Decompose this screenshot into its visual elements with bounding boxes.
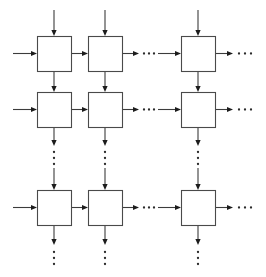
processing-cell-r2c2 <box>89 93 123 128</box>
arrowhead-h-r1-c3-in <box>175 51 181 56</box>
arrowhead-left-in-r3 <box>31 205 37 210</box>
ellipsis-dot <box>53 163 55 165</box>
ellipsis-horizontal-continuation-row-2-right <box>238 108 252 110</box>
ellipsis-dots-layer <box>53 52 252 265</box>
arrowhead-top-in-c3 <box>195 30 200 36</box>
ellipsis-dot <box>148 206 150 208</box>
processing-cell-r2c3 <box>182 93 216 128</box>
ellipsis-dot <box>148 52 150 54</box>
processing-cell-r3c2 <box>89 191 123 226</box>
diagram-canvas <box>0 0 266 277</box>
ellipsis-vertical-continuation-col-1 <box>53 151 55 165</box>
processing-cell-r3c3 <box>182 191 216 226</box>
arrowhead-top-in-c1 <box>51 30 56 36</box>
ellipsis-vertical-continuation-col-3-bottom <box>197 251 199 265</box>
ellipsis-dot <box>153 52 155 54</box>
ellipsis-vertical-continuation-col-1-bottom <box>53 251 55 265</box>
arrowhead-h-r2-c2-out <box>133 107 139 112</box>
arrowhead-h-r3-c3-out <box>227 205 233 210</box>
arrowhead-v-c1-r2-out <box>51 140 56 146</box>
arrowhead-left-in-r1 <box>31 51 37 56</box>
ellipsis-dot <box>197 263 199 265</box>
arrowhead-v-c1-r3-out <box>51 239 56 245</box>
arrowhead-h-r2-c3-in <box>175 107 181 112</box>
arrowhead-top-in-c2 <box>102 30 107 36</box>
ellipsis-horizontal-continuation-row-2 <box>143 108 155 110</box>
ellipsis-dot <box>197 163 199 165</box>
processing-cells-layer <box>38 37 216 226</box>
ellipsis-dot <box>143 52 145 54</box>
ellipsis-dot <box>104 157 106 159</box>
arrowhead-h-r1-c1c2 <box>82 51 88 56</box>
ellipsis-horizontal-continuation-row-3 <box>143 206 155 208</box>
arrowhead-h-r3-c1c2 <box>82 205 88 210</box>
ellipsis-dot <box>153 108 155 110</box>
ellipsis-horizontal-continuation-row-1-right <box>238 52 252 54</box>
processing-cell-r3c1 <box>38 191 72 226</box>
ellipsis-dot <box>238 108 240 110</box>
ellipsis-vertical-continuation-col-3 <box>197 151 199 165</box>
arrowhead-h-r2-c1c2 <box>82 107 88 112</box>
ellipsis-dot <box>53 263 55 265</box>
ellipsis-vertical-continuation-col-2 <box>104 151 106 165</box>
arrowhead-h-r3-c2-out <box>133 205 139 210</box>
ellipsis-dot <box>250 52 252 54</box>
ellipsis-dot <box>244 52 246 54</box>
processing-cell-r2c1 <box>38 93 72 128</box>
array-grid-diagram <box>0 0 266 277</box>
ellipsis-dot <box>238 52 240 54</box>
ellipsis-dot <box>143 206 145 208</box>
ellipsis-dot <box>250 108 252 110</box>
ellipsis-dot <box>104 151 106 153</box>
arrowhead-h-r1-c3-out <box>227 51 233 56</box>
ellipsis-dot <box>197 157 199 159</box>
arrowhead-h-r2-c3-out <box>227 107 233 112</box>
ellipsis-dot <box>104 257 106 259</box>
arrowhead-v-c2-r3-out <box>102 239 107 245</box>
ellipsis-dot <box>244 108 246 110</box>
arrowhead-v-c3-r3-in <box>195 184 200 190</box>
ellipsis-dot <box>53 157 55 159</box>
arrowhead-v-c3-r3-out <box>195 239 200 245</box>
ellipsis-dot <box>53 251 55 253</box>
ellipsis-dot <box>148 108 150 110</box>
ellipsis-horizontal-continuation-row-3-right <box>238 206 252 208</box>
ellipsis-dot <box>104 263 106 265</box>
ellipsis-dot <box>197 257 199 259</box>
ellipsis-dot <box>250 206 252 208</box>
processing-cell-r1c1 <box>38 37 72 72</box>
ellipsis-horizontal-continuation-row-1 <box>143 52 155 54</box>
ellipsis-dot <box>197 251 199 253</box>
arrowhead-v-c1-r1r2 <box>51 86 56 92</box>
ellipsis-dot <box>197 151 199 153</box>
ellipsis-dot <box>104 251 106 253</box>
arrowhead-v-c3-r1r2 <box>195 86 200 92</box>
ellipsis-dot <box>104 163 106 165</box>
processing-cell-r1c3 <box>182 37 216 72</box>
ellipsis-dot <box>153 206 155 208</box>
arrowhead-v-c3-r2-out <box>195 140 200 146</box>
arrowhead-v-c2-r1r2 <box>102 86 107 92</box>
arrowhead-h-r1-c2-out <box>133 51 139 56</box>
ellipsis-dot <box>53 257 55 259</box>
arrowhead-v-c2-r3-in <box>102 184 107 190</box>
arrowhead-h-r3-c3-in <box>175 205 181 210</box>
ellipsis-dot <box>53 151 55 153</box>
arrowhead-left-in-r2 <box>31 107 37 112</box>
arrowhead-v-c2-r2-out <box>102 140 107 146</box>
ellipsis-dot <box>238 206 240 208</box>
ellipsis-vertical-continuation-col-2-bottom <box>104 251 106 265</box>
ellipsis-dot <box>244 206 246 208</box>
processing-cell-r1c2 <box>89 37 123 72</box>
ellipsis-dot <box>143 108 145 110</box>
arrowhead-v-c1-r3-in <box>51 184 56 190</box>
